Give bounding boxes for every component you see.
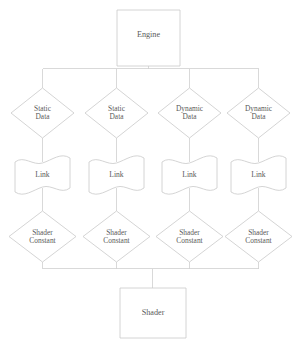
node-shader[interactable]: [120, 288, 186, 338]
node-dynamic-data-1[interactable]: [158, 88, 221, 138]
connector-group-source-to-link: [43, 138, 259, 162]
diagram-canvas: Engine Static Data Static Data Dynamic D…: [0, 0, 299, 344]
node-shader-constant-3[interactable]: [156, 211, 223, 262]
node-static-data-2[interactable]: [85, 88, 148, 138]
diagram-vector-layer: [0, 0, 299, 344]
node-dynamic-data-2[interactable]: [227, 88, 290, 138]
connector-group-link-to-constant: [43, 188, 259, 211]
connector-group-bottom: [43, 262, 259, 288]
node-engine[interactable]: [117, 10, 180, 66]
node-shader-constant-2[interactable]: [83, 211, 150, 262]
connector-group-top: [43, 66, 259, 88]
node-shader-constant-4[interactable]: [225, 211, 292, 262]
node-shader-constant-1[interactable]: [9, 211, 76, 262]
node-static-data-1[interactable]: [11, 88, 74, 138]
